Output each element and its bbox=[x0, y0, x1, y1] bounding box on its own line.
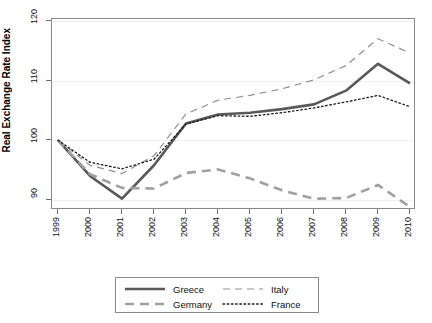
legend-column-left: GreeceGermany bbox=[124, 278, 220, 312]
y-tick-label: 90 bbox=[30, 188, 39, 198]
x-tick-mark bbox=[377, 209, 378, 214]
x-tick-label: 2010 bbox=[404, 217, 413, 237]
legend-swatch-italy bbox=[222, 284, 264, 294]
x-tick-label: 2002 bbox=[148, 217, 157, 237]
line-series-germany bbox=[58, 140, 410, 207]
legend-entry-italy[interactable]: Italy bbox=[222, 281, 288, 297]
legend-swatch-france bbox=[222, 299, 264, 309]
legend-swatch-greece bbox=[124, 284, 166, 294]
x-tick-mark bbox=[217, 209, 218, 214]
x-tick-mark bbox=[345, 209, 346, 214]
chart-figure: Real Exchange Rate Index 90100110120 199… bbox=[0, 0, 432, 323]
legend-entry-germany[interactable]: Germany bbox=[124, 296, 212, 312]
x-tick-mark bbox=[409, 209, 410, 214]
x-axis: 1999200020012002200320042005200620072008… bbox=[51, 209, 415, 269]
y-tick-label: 100 bbox=[30, 128, 39, 143]
series-lines bbox=[52, 19, 416, 210]
legend-entry-greece[interactable]: Greece bbox=[124, 281, 204, 297]
legend-column-right: ItalyFrance bbox=[222, 278, 318, 312]
legend-label: Greece bbox=[173, 284, 204, 295]
x-tick-mark bbox=[57, 209, 58, 214]
x-tick-label: 2003 bbox=[180, 217, 189, 237]
y-tick-label: 120 bbox=[30, 9, 39, 24]
x-tick-label: 1999 bbox=[52, 217, 61, 237]
x-tick-label: 2001 bbox=[116, 217, 125, 237]
y-tick-label: 110 bbox=[30, 69, 39, 83]
x-tick-label: 2004 bbox=[212, 217, 221, 237]
x-tick-label: 2006 bbox=[276, 217, 285, 237]
x-tick-label: 2005 bbox=[244, 217, 253, 237]
x-tick-label: 2008 bbox=[340, 217, 349, 237]
legend-label: Italy bbox=[271, 284, 288, 295]
x-tick-label: 2007 bbox=[308, 217, 317, 237]
legend-label: France bbox=[271, 299, 301, 310]
y-axis: Real Exchange Rate Index 90100110120 bbox=[0, 0, 51, 227]
x-tick-mark bbox=[89, 209, 90, 214]
x-tick-mark bbox=[121, 209, 122, 214]
x-tick-mark bbox=[249, 209, 250, 214]
line-series-greece bbox=[58, 64, 410, 199]
x-tick-mark bbox=[281, 209, 282, 214]
legend-entry-france[interactable]: France bbox=[222, 296, 301, 312]
legend-swatch-germany bbox=[124, 299, 166, 309]
x-tick-label: 2009 bbox=[372, 217, 381, 237]
line-series-italy bbox=[58, 39, 410, 174]
legend-label: Germany bbox=[173, 299, 212, 310]
x-tick-label: 2000 bbox=[84, 217, 93, 237]
x-tick-mark bbox=[153, 209, 154, 214]
x-tick-mark bbox=[185, 209, 186, 214]
chart-legend: GreeceGermany ItalyFrance bbox=[115, 277, 319, 313]
line-series-france bbox=[58, 95, 410, 168]
plot-area bbox=[51, 18, 415, 209]
y-axis-title: Real Exchange Rate Index bbox=[2, 28, 12, 153]
x-tick-mark bbox=[313, 209, 314, 214]
